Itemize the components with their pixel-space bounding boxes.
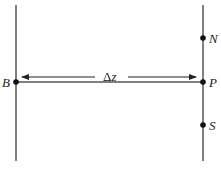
label-n: N [208,31,219,46]
point-s-dot [200,122,206,128]
label-b: B [2,75,10,90]
diagram-canvas: Δz B P N S [0,0,221,170]
point-b-dot [13,79,19,85]
point-n-dot [200,35,206,41]
label-s: S [209,118,216,133]
delta-z-label: Δz [103,69,116,84]
label-p: P [208,75,217,90]
point-p-dot [200,79,206,85]
